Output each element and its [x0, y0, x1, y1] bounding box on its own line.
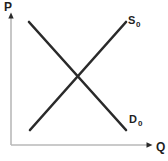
y-axis-group	[8, 13, 13, 146]
supply-demand-figure: P Q S 0 D 0	[0, 0, 168, 161]
supply-demand-chart: P Q S 0 D 0	[0, 0, 168, 161]
supply-curve-label-subscript: 0	[136, 20, 141, 29]
demand-curve-label-group: D 0	[129, 113, 143, 128]
x-axis-group	[11, 142, 153, 147]
x-axis-arrowhead	[147, 142, 153, 147]
supply-curve-label-group: S 0	[128, 14, 141, 29]
x-axis-label: Q	[156, 140, 165, 154]
demand-curve-label: D	[129, 113, 137, 125]
supply-curve-label: S	[128, 14, 135, 26]
demand-curve-label-subscript: 0	[138, 119, 143, 128]
y-axis-label: P	[4, 0, 12, 14]
